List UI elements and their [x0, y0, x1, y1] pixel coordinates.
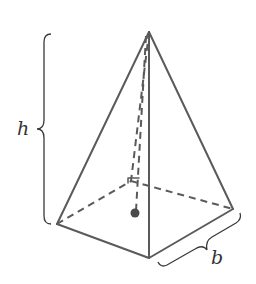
height-label: h: [17, 117, 29, 139]
base-side-label: b: [211, 246, 223, 268]
pyramid-diagram: [0, 0, 256, 284]
base-edge-left-front: [57, 224, 149, 258]
base-center-dot: [131, 209, 140, 218]
edge-apex-right: [149, 32, 233, 209]
base-brace: [158, 213, 241, 266]
edge-apex-left: [57, 32, 149, 224]
height-brace: [37, 34, 51, 224]
hidden-edge-back-right: [131, 181, 233, 209]
hidden-edge-apex-back: [131, 32, 149, 181]
